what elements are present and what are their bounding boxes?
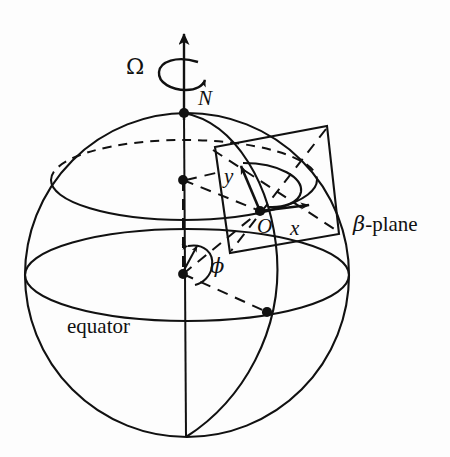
omega-label: Ω xyxy=(126,56,144,78)
north-pole-marker xyxy=(179,108,189,118)
latitude-center-marker xyxy=(178,175,188,185)
phi-angle-group xyxy=(183,245,212,285)
dashed-latitude-tangent xyxy=(186,172,220,180)
beta-plane-quad xyxy=(215,126,339,253)
beta-plane-label: β-plane xyxy=(353,214,418,235)
x-axis-label: x xyxy=(290,218,299,239)
sphere-center-marker xyxy=(178,269,188,279)
beta-plane-group xyxy=(215,126,339,253)
equator-point-marker xyxy=(262,307,272,317)
beta-plane-suffix: -plane xyxy=(365,212,417,236)
north-pole-label: N xyxy=(198,88,212,109)
beta-symbol: β xyxy=(353,212,365,236)
beta-plane-figure: Ω N y O x ϕ equator β-plane xyxy=(0,0,450,457)
dashed-plane-diagonal-a xyxy=(213,150,339,232)
local-axes-group xyxy=(241,163,309,211)
origin-label: O xyxy=(257,216,272,237)
dashed-equatorial-radius xyxy=(183,274,267,312)
equator-label: equator xyxy=(67,316,130,337)
phi-angle-label: ϕ xyxy=(210,256,224,277)
phi-angle-arc xyxy=(188,245,212,285)
y-axis-label: y xyxy=(224,166,233,187)
equator-back-arc xyxy=(25,229,349,275)
